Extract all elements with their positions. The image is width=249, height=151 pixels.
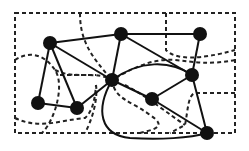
node-b xyxy=(114,27,128,41)
edges xyxy=(38,34,207,139)
node-c xyxy=(193,27,207,41)
graph-diagram xyxy=(0,0,249,151)
node-d xyxy=(105,73,119,87)
region-line xyxy=(112,80,159,133)
node-i xyxy=(200,126,214,140)
node-g xyxy=(70,101,84,115)
node-e xyxy=(185,68,199,82)
node-f xyxy=(31,96,45,110)
node-h xyxy=(145,92,159,106)
node-a xyxy=(43,36,57,50)
